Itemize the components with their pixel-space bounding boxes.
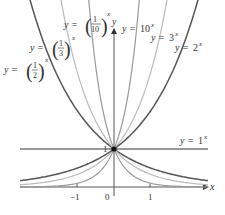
- svg-text:x: x: [71, 34, 76, 42]
- x-tick-label-0: 0: [105, 192, 110, 202]
- svg-text:y =: y =: [3, 64, 18, 75]
- svg-text:10: 10: [140, 23, 150, 34]
- svg-text:x: x: [150, 21, 155, 29]
- label-1-pow-x: y = 1 x: [179, 133, 208, 146]
- svg-text:1: 1: [93, 15, 97, 24]
- x-tick-label-neg1: −1: [70, 192, 80, 202]
- svg-text:x: x: [44, 56, 49, 64]
- svg-text:10: 10: [91, 25, 99, 34]
- svg-text:y =: y =: [63, 19, 78, 30]
- svg-text:x: x: [106, 10, 111, 18]
- svg-text:1: 1: [33, 61, 37, 70]
- label-third-pow-x: y = ( 1 3 ) x: [29, 34, 76, 61]
- svg-text:2: 2: [193, 42, 198, 53]
- label-10-pow-x: y = 10 x: [121, 21, 155, 34]
- y-tick-label-1: 1: [103, 144, 108, 154]
- svg-text:x: x: [174, 30, 179, 38]
- svg-text:x: x: [198, 40, 203, 48]
- svg-text:(: (: [26, 60, 33, 83]
- y-axis-label: y: [111, 16, 117, 27]
- exponential-functions-chart: −1 0 1 1 x y y = ( 1 2 ) x y = ( 1 3 ) x…: [0, 0, 225, 215]
- svg-text:y =: y =: [179, 135, 194, 146]
- svg-text:y =: y =: [150, 32, 165, 43]
- x-tick-label-1: 1: [148, 192, 153, 202]
- svg-text:2: 2: [33, 71, 37, 80]
- svg-text:y =: y =: [121, 23, 136, 34]
- svg-text:): ): [101, 15, 108, 38]
- intersection-point: [111, 146, 116, 151]
- svg-text:1: 1: [198, 135, 203, 146]
- svg-text:3: 3: [169, 32, 174, 43]
- svg-text:): ): [38, 60, 45, 83]
- x-axis-label: x: [209, 181, 215, 192]
- svg-text:y =: y =: [29, 42, 44, 53]
- svg-text:3: 3: [59, 49, 63, 58]
- label-half-pow-x: y = ( 1 2 ) x: [3, 56, 49, 83]
- svg-text:(: (: [52, 38, 59, 61]
- svg-text:x: x: [203, 133, 208, 141]
- svg-text:y =: y =: [174, 42, 189, 53]
- svg-text:1: 1: [59, 39, 63, 48]
- svg-text:): ): [64, 38, 71, 61]
- label-tenth-pow-x: y = ( 1 10 ) x: [63, 10, 111, 38]
- label-2-pow-x: y = 2 x: [174, 40, 203, 53]
